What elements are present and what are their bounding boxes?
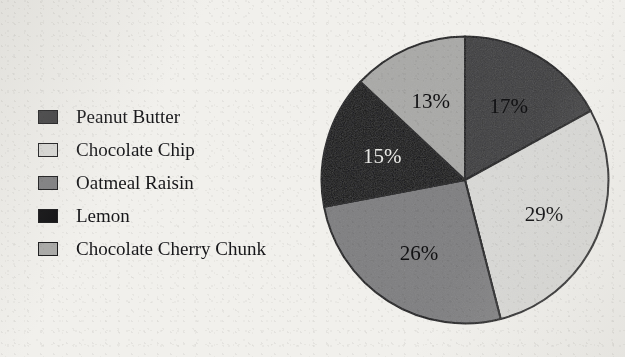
pie-slice-label: 15% <box>363 144 402 168</box>
legend-item-chocolate-chip: Chocolate Chip <box>38 133 266 166</box>
legend-item-lemon: Lemon <box>38 199 266 232</box>
legend-item-label: Lemon <box>76 206 130 225</box>
pie-slice-label: 29% <box>525 202 564 226</box>
pie-slice-label: 17% <box>490 94 529 118</box>
legend-item-chocolate-cherry-chunk: Chocolate Cherry Chunk <box>38 232 266 265</box>
pie-slices <box>321 37 608 324</box>
legend-item-label: Chocolate Chip <box>76 140 195 159</box>
legend-item-label: Peanut Butter <box>76 107 180 126</box>
legend-swatch-icon <box>38 143 58 157</box>
chart-legend: Peanut Butter Chocolate Chip Oatmeal Rai… <box>38 100 266 265</box>
legend-item-oatmeal-raisin: Oatmeal Raisin <box>38 166 266 199</box>
legend-swatch-icon <box>38 110 58 124</box>
pie-slice-label: 26% <box>400 241 439 265</box>
pie-chart: 17%29%26%15%13% <box>319 34 611 326</box>
pie-slice-label: 13% <box>412 89 451 113</box>
legend-item-label: Oatmeal Raisin <box>76 173 194 192</box>
pie-chart-svg: 17%29%26%15%13% <box>319 34 611 326</box>
legend-item-peanut-butter: Peanut Butter <box>38 100 266 133</box>
legend-swatch-icon <box>38 176 58 190</box>
legend-swatch-icon <box>38 209 58 223</box>
legend-item-label: Chocolate Cherry Chunk <box>76 239 266 258</box>
legend-swatch-icon <box>38 242 58 256</box>
